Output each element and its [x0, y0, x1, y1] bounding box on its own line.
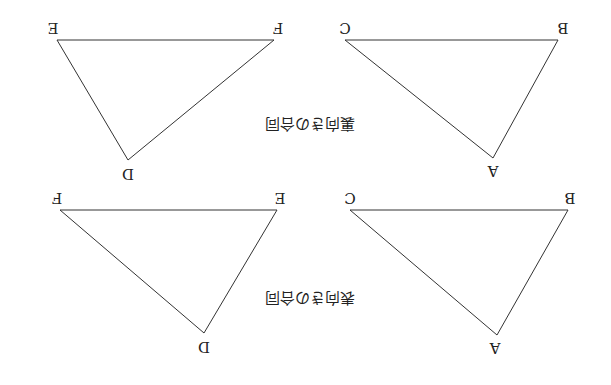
vertex-label-a: A	[487, 162, 499, 180]
triangle-def-bottom: E F D	[52, 189, 286, 356]
caption-reversed-congruence: 裏向きの合同	[265, 115, 355, 133]
congruence-figure: B C A F E D 裏向きの合同 B C A E F D 表向きの合同	[0, 0, 611, 385]
vertex-label-b: B	[564, 189, 575, 207]
vertex-label-a: A	[489, 339, 501, 357]
vertex-label-f: F	[52, 189, 62, 207]
vertex-label-d: D	[122, 165, 134, 183]
vertex-label-e: E	[48, 19, 59, 37]
vertex-label-f: F	[273, 19, 283, 37]
triangle-def-top: F E D	[48, 19, 284, 183]
triangle-abc-bottom: B C A	[344, 189, 575, 357]
caption-direct-congruence: 表向きの合同	[265, 289, 355, 307]
vertex-label-b: B	[557, 19, 568, 37]
vertex-label-d: D	[198, 338, 210, 356]
vertex-label-e: E	[275, 189, 286, 207]
vertex-label-c: C	[339, 19, 350, 37]
triangle-abc-top: B C A	[339, 19, 568, 180]
vertex-label-c: C	[344, 189, 355, 207]
